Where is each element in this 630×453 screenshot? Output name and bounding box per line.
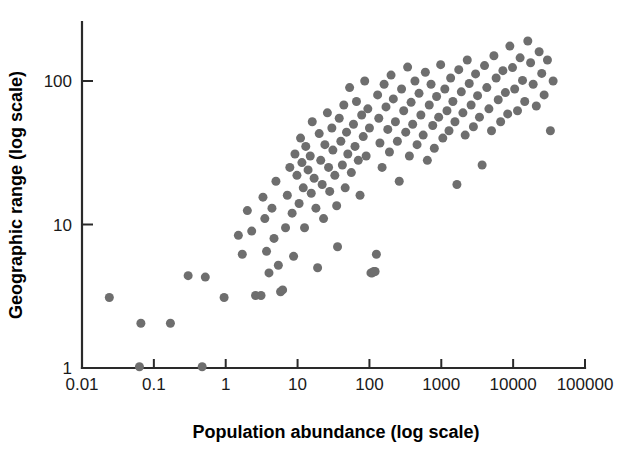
data-point	[378, 163, 387, 172]
data-point	[359, 132, 368, 141]
data-point	[323, 108, 332, 117]
data-point	[487, 126, 496, 135]
scatter-plot-figure: 0.010.1110100100010000100000 110100 Popu…	[0, 0, 630, 453]
data-point	[526, 58, 535, 67]
data-point	[423, 156, 432, 165]
data-point	[391, 117, 400, 126]
data-point	[292, 171, 301, 180]
data-point	[405, 152, 414, 161]
data-point	[374, 114, 383, 123]
data-point	[290, 149, 299, 158]
data-point	[549, 77, 558, 86]
data-point	[270, 234, 279, 243]
data-point	[432, 92, 441, 101]
data-point	[201, 273, 210, 282]
data-point	[492, 73, 501, 82]
data-point	[310, 174, 319, 183]
data-point	[442, 106, 451, 115]
data-point	[319, 214, 328, 223]
data-point	[498, 66, 507, 75]
data-point	[288, 209, 297, 218]
data-point	[484, 104, 493, 113]
data-point	[428, 121, 437, 130]
data-point	[457, 87, 466, 96]
data-point	[501, 88, 510, 97]
data-point	[401, 128, 410, 137]
data-point	[234, 231, 243, 240]
data-point	[320, 140, 329, 149]
data-point	[243, 206, 252, 215]
data-point	[274, 261, 283, 270]
data-point	[434, 113, 443, 122]
data-point	[503, 109, 512, 118]
data-point	[408, 120, 417, 129]
data-point	[469, 122, 478, 131]
data-point	[372, 250, 381, 259]
data-point	[315, 129, 324, 138]
data-point	[306, 152, 315, 161]
y-axis-title: Geographic range (log scale)	[6, 71, 26, 319]
data-point	[444, 126, 453, 135]
data-point	[383, 125, 392, 134]
data-point	[247, 227, 256, 236]
data-point	[496, 117, 505, 126]
data-point	[324, 163, 333, 172]
data-point	[300, 223, 309, 232]
data-point	[345, 83, 354, 92]
data-point	[403, 63, 412, 72]
data-point	[480, 61, 489, 70]
data-point	[260, 214, 269, 223]
data-point	[513, 106, 522, 115]
data-point	[473, 91, 482, 100]
data-point	[264, 268, 273, 277]
data-point	[475, 113, 484, 122]
x-tick-label: 1	[221, 375, 230, 394]
data-point	[440, 84, 449, 93]
data-point	[262, 247, 271, 256]
data-point	[363, 104, 372, 113]
data-point	[354, 156, 363, 165]
data-point	[393, 137, 402, 146]
data-point	[546, 126, 555, 135]
data-point	[339, 101, 348, 110]
data-point	[532, 101, 541, 110]
data-point	[278, 285, 287, 294]
data-point	[349, 120, 358, 129]
data-point	[523, 36, 532, 45]
data-point	[283, 191, 292, 200]
data-point	[135, 362, 144, 371]
data-point	[301, 142, 310, 151]
data-point	[238, 250, 247, 259]
data-point	[452, 180, 461, 189]
data-point	[410, 77, 419, 86]
data-point	[307, 189, 316, 198]
x-tick-label: 100	[355, 375, 383, 394]
data-point	[458, 108, 467, 117]
data-point	[461, 131, 470, 140]
data-point	[285, 163, 294, 172]
data-point	[446, 73, 455, 82]
data-point	[387, 71, 396, 80]
data-point	[510, 84, 519, 93]
data-point	[325, 187, 334, 196]
data-point	[415, 89, 424, 98]
data-point	[362, 152, 371, 161]
data-point	[271, 177, 280, 186]
data-point	[365, 124, 374, 133]
data-point	[330, 171, 339, 180]
data-point	[454, 65, 463, 74]
data-point	[425, 101, 434, 110]
x-tick-label: 0.1	[142, 375, 166, 394]
data-point	[489, 51, 498, 60]
data-point	[543, 56, 552, 65]
data-point	[436, 60, 445, 69]
data-point	[257, 291, 266, 300]
data-point	[327, 124, 336, 133]
data-point	[438, 134, 447, 143]
data-point	[508, 63, 517, 72]
data-point	[540, 90, 549, 99]
y-tick-label: 100	[44, 72, 72, 91]
data-point	[281, 223, 290, 232]
data-point	[397, 84, 406, 93]
data-point	[166, 319, 175, 328]
